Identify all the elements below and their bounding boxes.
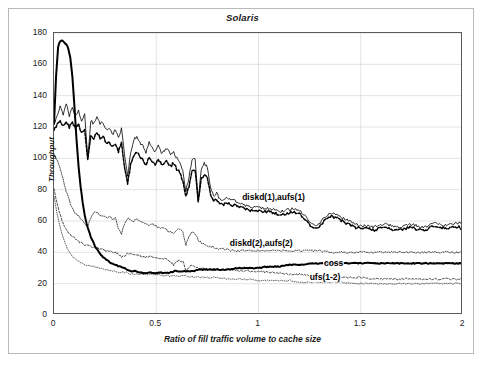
chart-svg (54, 33, 462, 314)
series-line-aufs1 (54, 104, 462, 229)
series-annotation: diskd(1),aufs(1) (241, 192, 306, 202)
y-tick-label: 40 (11, 246, 47, 256)
series-paths (54, 40, 462, 284)
y-axis-label: Throughput (47, 137, 56, 182)
x-tick-label: 1.5 (345, 318, 375, 328)
chart-title: Solaris (0, 12, 485, 23)
figure-root: Solaris 020406080100120140160180 00.511.… (0, 0, 485, 365)
x-tick-label: 2 (447, 318, 477, 328)
y-tick-label: 180 (11, 27, 47, 37)
y-tick-label: 60 (11, 215, 47, 225)
x-tick-label: 0.5 (140, 318, 170, 328)
x-tick-label: 1 (243, 318, 273, 328)
series-line-diskd2 (54, 189, 462, 280)
plot-area (53, 32, 462, 314)
y-tick-label: 80 (11, 184, 47, 194)
y-tick-label: 140 (11, 90, 47, 100)
y-tick-label: 100 (11, 152, 47, 162)
x-axis-label: Ratio of fill traffic volume to cache si… (0, 334, 485, 344)
y-tick-label: 120 (11, 121, 47, 131)
series-annotation: ufs(1-2) (309, 272, 342, 282)
x-tick-label: 0 (38, 318, 68, 328)
y-tick-label: 160 (11, 58, 47, 68)
y-tick-label: 20 (11, 278, 47, 288)
series-annotation: coss (323, 258, 344, 268)
series-line-diskd1 (54, 121, 462, 232)
gridlines (54, 33, 462, 314)
plot-wrapper: 020406080100120140160180 00.511.52 diskd… (53, 32, 462, 314)
series-annotation: diskd(2),aufs(2) (229, 238, 294, 248)
